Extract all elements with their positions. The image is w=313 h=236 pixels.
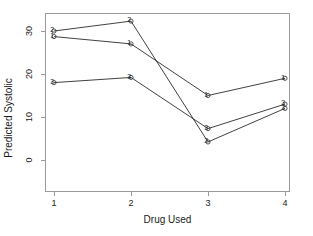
marker-label: 3 bbox=[50, 78, 54, 85]
data-point-series-2-x3: 2 bbox=[204, 137, 210, 144]
data-point-series-1-x2: 1 bbox=[127, 39, 133, 46]
data-layer: 111122223333 bbox=[0, 0, 313, 236]
data-point-series-1-x3: 1 bbox=[204, 91, 210, 98]
marker-label: 1 bbox=[204, 91, 208, 98]
data-point-series-3-x1: 3 bbox=[50, 78, 56, 85]
marker-label: 2 bbox=[204, 137, 208, 144]
marker-label: 1 bbox=[281, 74, 285, 81]
marker-label: 3 bbox=[127, 73, 131, 80]
series-group: 111122223333 bbox=[50, 16, 287, 144]
data-point-series-3-x3: 3 bbox=[204, 124, 210, 131]
marker-label: 3 bbox=[281, 99, 285, 106]
series-line-3 bbox=[54, 77, 285, 128]
interaction-plot-figure: Predicted Systolic 0 10 20 30 1 2 3 4 Dr… bbox=[0, 0, 313, 236]
series-line-1 bbox=[54, 37, 285, 96]
data-point-series-1-x4: 1 bbox=[281, 74, 287, 81]
data-point-series-3-x2: 3 bbox=[127, 73, 133, 80]
data-point-series-2-x2: 2 bbox=[127, 16, 133, 23]
series-line-2 bbox=[54, 21, 285, 142]
marker-label: 3 bbox=[204, 124, 208, 131]
marker-label: 2 bbox=[50, 26, 54, 33]
marker-label: 1 bbox=[127, 39, 131, 46]
data-point-series-2-x1: 2 bbox=[50, 26, 56, 33]
data-point-series-3-x4: 3 bbox=[281, 99, 287, 106]
series-svg: 111122223333 bbox=[0, 0, 313, 236]
marker-label: 2 bbox=[127, 16, 131, 23]
